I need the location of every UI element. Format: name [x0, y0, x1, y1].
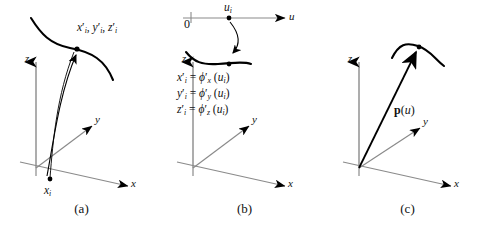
- panel-a-caption: (a): [0, 202, 163, 215]
- z-axis-label: z: [348, 53, 352, 64]
- equation-block: x′i = ϕ′x (ui) y′i = ϕ′y (ui) z′i = ϕ′z …: [177, 70, 229, 119]
- curve-point: [417, 45, 422, 50]
- panel-b-caption: (b): [163, 202, 326, 215]
- equation-z: z′i = ϕ′z (ui): [177, 102, 229, 118]
- panel-c: z y x p(u) (c): [326, 0, 489, 225]
- parametric-curve: [186, 52, 251, 64]
- base-point-label: xi: [44, 185, 51, 198]
- figure-parametric-curve-mapping: z y x x′i, y′i, z′i xi (a): [0, 0, 489, 225]
- x-axis-label: x: [288, 178, 293, 189]
- y-axis-label: y: [252, 114, 257, 125]
- position-vector-label: p(u): [394, 104, 415, 116]
- panel-c-caption: (c): [326, 202, 489, 215]
- y-axis-label: y: [95, 114, 100, 125]
- y-axis-line: [36, 126, 92, 168]
- z-axis-label: z: [25, 53, 29, 64]
- y-axis-label: y: [423, 116, 428, 127]
- mapping-arrow: [230, 22, 238, 53]
- z-axis-label: z: [182, 53, 186, 64]
- x-axis-label: x: [454, 178, 459, 189]
- y-axis-line: [193, 126, 249, 168]
- curve-point: [74, 46, 79, 51]
- u-parameter-label: ui: [224, 2, 232, 15]
- x-axis-label: x: [131, 178, 136, 189]
- curve-point: [227, 62, 232, 67]
- equation-x: x′i = ϕ′x (ui): [177, 70, 229, 86]
- curve-point-label: x′i, y′i, z′i: [77, 22, 117, 35]
- u-axis-origin-label: 0: [184, 18, 190, 30]
- u-parameter-point: [227, 16, 232, 21]
- equation-y: y′i = ϕ′y (ui): [177, 86, 229, 102]
- panel-a: z y x x′i, y′i, z′i xi (a): [0, 0, 163, 225]
- panel-b: 0 u ui z y x x′i = ϕ′x (ui) y′i = ϕ′y (u…: [163, 0, 326, 225]
- u-axis-label: u: [289, 11, 295, 22]
- base-point: [48, 177, 53, 182]
